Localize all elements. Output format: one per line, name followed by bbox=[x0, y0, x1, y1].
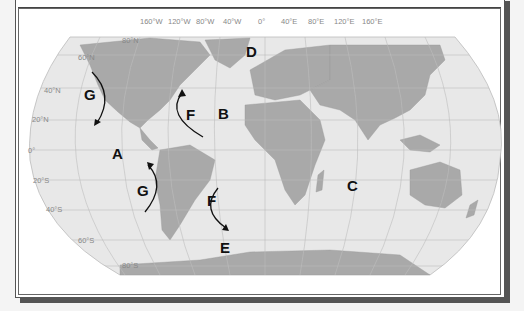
current-label-f-north: F bbox=[186, 106, 195, 123]
current-label-g-north: G bbox=[84, 86, 96, 103]
location-label-d: D bbox=[246, 43, 257, 60]
svg-text:120°W: 120°W bbox=[168, 17, 192, 26]
svg-text:80°N: 80°N bbox=[122, 36, 139, 45]
svg-text:80°W: 80°W bbox=[196, 17, 215, 26]
longitude-labels: 160°W 120°W 80°W 40°W 0° 40°E 80°E 120°E… bbox=[140, 17, 383, 26]
svg-text:120°E: 120°E bbox=[334, 17, 355, 26]
svg-text:20°S: 20°S bbox=[33, 176, 49, 185]
location-label-e: E bbox=[220, 239, 230, 256]
current-label-g-south: G bbox=[137, 182, 149, 199]
svg-text:80°S: 80°S bbox=[122, 261, 138, 270]
svg-text:160°E: 160°E bbox=[362, 17, 383, 26]
svg-text:40°N: 40°N bbox=[44, 86, 61, 95]
svg-text:80°E: 80°E bbox=[308, 17, 324, 26]
location-label-c: C bbox=[347, 177, 358, 194]
svg-text:40°E: 40°E bbox=[281, 17, 297, 26]
location-label-b: B bbox=[218, 105, 229, 122]
world-map: 160°W 120°W 80°W 40°W 0° 40°E 80°E 120°E… bbox=[0, 0, 524, 311]
current-label-f-south: F bbox=[207, 192, 216, 209]
svg-text:0°: 0° bbox=[28, 146, 35, 155]
location-label-a: A bbox=[112, 145, 123, 162]
svg-text:20°N: 20°N bbox=[32, 115, 49, 124]
svg-text:160°W: 160°W bbox=[140, 17, 164, 26]
svg-text:60°S: 60°S bbox=[78, 236, 94, 245]
svg-text:40°W: 40°W bbox=[223, 17, 242, 26]
svg-text:40°S: 40°S bbox=[46, 205, 62, 214]
svg-text:0°: 0° bbox=[258, 17, 265, 26]
svg-text:60°N: 60°N bbox=[78, 53, 95, 62]
